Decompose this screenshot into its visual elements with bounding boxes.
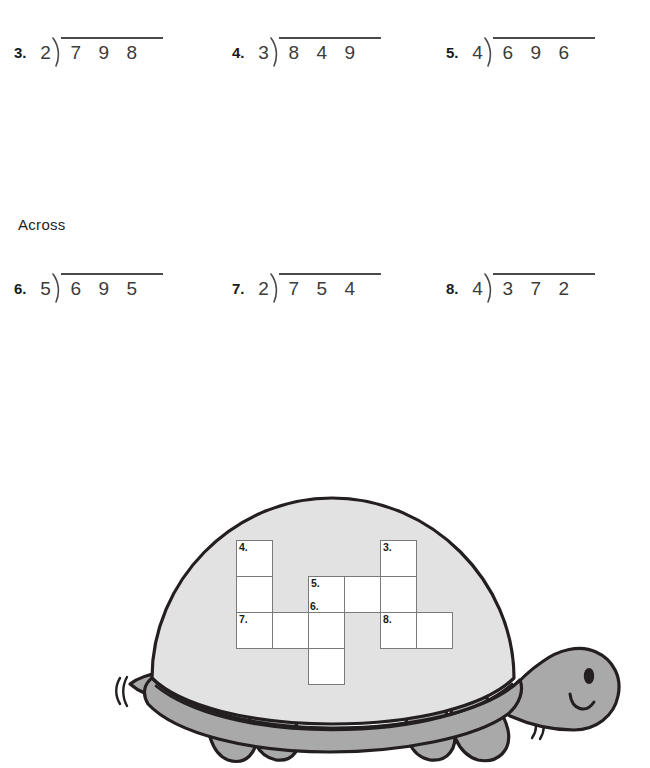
dividend-group: 798 <box>62 36 146 66</box>
dividend: 798 <box>62 40 146 66</box>
division-vinculum <box>61 37 163 39</box>
crossword-cell-number: 6. <box>310 601 319 612</box>
crossword-cell-number: 7. <box>239 614 248 625</box>
division-bracket: 695 <box>51 272 146 303</box>
division-problem-3[interactable]: 3.2798 <box>14 30 146 76</box>
dividend-digit: 7 <box>62 40 90 66</box>
dividend-digit: 5 <box>308 276 336 302</box>
division-problem-8[interactable]: 8.4372 <box>446 266 578 312</box>
dividend: 696 <box>494 40 578 66</box>
crossword-cell-number: 3. <box>383 542 392 553</box>
divisor: 2 <box>40 36 51 66</box>
crossword-cell[interactable] <box>308 648 345 685</box>
division-bracket: 696 <box>483 36 578 67</box>
crossword-cell[interactable] <box>272 612 309 649</box>
motion-lines-left <box>116 677 127 706</box>
dividend-digit: 6 <box>494 40 522 66</box>
divisor: 3 <box>258 36 269 66</box>
dividend-group: 849 <box>280 36 364 66</box>
division-problem-6[interactable]: 6.5695 <box>14 266 146 312</box>
division-problem-5[interactable]: 5.4696 <box>446 30 578 76</box>
dividend-digit: 8 <box>118 40 146 66</box>
dividend-group: 754 <box>280 272 364 302</box>
division-vinculum <box>493 37 595 39</box>
crossword-cell[interactable] <box>344 576 381 613</box>
division-vinculum <box>279 273 381 275</box>
dividend-digit: 9 <box>522 40 550 66</box>
division-bracket: 372 <box>483 272 578 303</box>
problem-number: 4. <box>232 30 244 68</box>
division-problem-4[interactable]: 4.3849 <box>232 30 364 76</box>
long-division-expression: 2798 <box>40 30 146 67</box>
division-vinculum <box>61 273 163 275</box>
dividend-digit: 4 <box>308 40 336 66</box>
crossword-cell[interactable]: 7. <box>236 612 273 649</box>
dividend-group: 696 <box>494 36 578 66</box>
dividend: 695 <box>62 276 146 302</box>
dividend-digit: 4 <box>336 276 364 302</box>
crossword-cell[interactable] <box>308 612 345 649</box>
division-bracket: 754 <box>269 272 364 303</box>
long-division-expression: 2754 <box>258 266 364 303</box>
crossword-cell-extra-number-holder: 6. <box>308 576 345 613</box>
crossword-grid[interactable]: 4.7.5.3.8.6. <box>236 540 462 726</box>
crossword-cell-number: 8. <box>383 614 392 625</box>
division-vinculum <box>279 37 381 39</box>
dividend-digit: 7 <box>280 276 308 302</box>
dividend: 754 <box>280 276 364 302</box>
division-bracket: 798 <box>51 36 146 67</box>
problem-row-row-across: 6.56957.27548.4372 <box>0 266 650 312</box>
problem-row-row-down: 3.27984.38495.4696 <box>0 30 650 76</box>
crossword-cell-number: 4. <box>239 542 248 553</box>
problem-number: 3. <box>14 30 26 68</box>
division-bracket-hook-icon <box>269 37 280 67</box>
division-bracket-hook-icon <box>51 37 62 67</box>
problem-number: 7. <box>232 266 244 304</box>
division-vinculum <box>493 273 595 275</box>
problem-number: 8. <box>446 266 458 304</box>
crossword-cell[interactable]: 4. <box>236 540 273 577</box>
crossword-cell[interactable] <box>416 612 453 649</box>
dividend: 849 <box>280 40 364 66</box>
dividend-digit: 3 <box>494 276 522 302</box>
problem-number: 5. <box>446 30 458 68</box>
division-bracket-hook-icon <box>269 273 280 303</box>
long-division-expression: 4372 <box>472 266 578 303</box>
division-bracket-hook-icon <box>483 37 494 67</box>
dividend-digit: 7 <box>522 276 550 302</box>
dividend-group: 372 <box>494 272 578 302</box>
dividend-digit: 6 <box>62 276 90 302</box>
crossword-cell[interactable]: 8. <box>380 612 417 649</box>
dividend-digit: 8 <box>280 40 308 66</box>
divisor: 2 <box>258 272 269 302</box>
dividend-digit: 2 <box>550 276 578 302</box>
dividend-digit: 6 <box>550 40 578 66</box>
long-division-expression: 3849 <box>258 30 364 67</box>
dividend: 372 <box>494 276 578 302</box>
long-division-expression: 5695 <box>40 266 146 303</box>
turtle-eye <box>584 668 594 684</box>
problem-number: 6. <box>14 266 26 304</box>
across-section-label: Across <box>18 216 66 233</box>
division-problem-7[interactable]: 7.2754 <box>232 266 364 312</box>
dividend-digit: 9 <box>336 40 364 66</box>
crossword-cell[interactable] <box>380 576 417 613</box>
division-bracket-hook-icon <box>483 273 494 303</box>
dividend-group: 695 <box>62 272 146 302</box>
division-bracket: 849 <box>269 36 364 67</box>
dividend-digit: 9 <box>90 40 118 66</box>
division-bracket-hook-icon <box>51 273 62 303</box>
divisor: 5 <box>40 272 51 302</box>
crossword-cell[interactable]: 3. <box>380 540 417 577</box>
divisor: 4 <box>472 36 483 66</box>
dividend-digit: 9 <box>90 276 118 302</box>
dividend-digit: 5 <box>118 276 146 302</box>
divisor: 4 <box>472 272 483 302</box>
long-division-expression: 4696 <box>472 30 578 67</box>
crossword-cell[interactable] <box>236 576 273 613</box>
